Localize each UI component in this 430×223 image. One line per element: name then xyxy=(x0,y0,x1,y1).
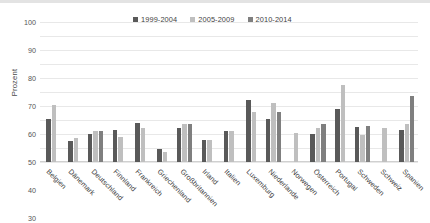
bar[interactable] xyxy=(135,123,139,162)
bar[interactable] xyxy=(113,130,117,162)
bar-group xyxy=(151,22,173,162)
x-label-cell: Luxemburg xyxy=(240,165,262,221)
x-label-cell: Großbritannien xyxy=(173,165,195,221)
x-label-cell: Österreich xyxy=(307,165,329,221)
bar[interactable] xyxy=(202,140,206,162)
bar-group xyxy=(351,22,373,162)
bar-group xyxy=(262,22,284,162)
y-axis-tick-label: 30 xyxy=(28,214,36,223)
bar[interactable] xyxy=(405,124,409,162)
bar[interactable] xyxy=(99,131,103,162)
bar-group xyxy=(129,22,151,162)
bar[interactable] xyxy=(341,85,345,162)
bar[interactable] xyxy=(399,130,403,162)
bar[interactable] xyxy=(355,127,359,162)
bar[interactable] xyxy=(277,112,281,162)
bar[interactable] xyxy=(335,109,339,162)
bar-group xyxy=(84,22,106,162)
y-axis-tick-label: 90 xyxy=(28,46,36,55)
bar[interactable] xyxy=(266,119,270,162)
bar-group xyxy=(40,22,62,162)
bar[interactable] xyxy=(141,128,145,162)
bar[interactable] xyxy=(224,131,228,162)
bar-group xyxy=(329,22,351,162)
bar[interactable] xyxy=(68,141,72,162)
bar-group xyxy=(285,22,307,162)
bar-group xyxy=(240,22,262,162)
y-axis-tick-label: 80 xyxy=(28,74,36,83)
bar[interactable] xyxy=(294,133,298,162)
bar[interactable] xyxy=(207,140,211,162)
x-label-cell: Niederlande xyxy=(262,165,284,221)
y-axis-tick-label: 100 xyxy=(24,18,36,27)
bar[interactable] xyxy=(366,126,370,162)
bar-group xyxy=(218,22,240,162)
bar[interactable] xyxy=(382,128,386,162)
bar[interactable] xyxy=(229,131,233,162)
y-axis-title: Prozent xyxy=(10,53,19,113)
bar-group xyxy=(173,22,195,162)
bar[interactable] xyxy=(246,100,250,162)
x-axis-labels: BelgienDänemarkDeutschlandFinnlandFrankr… xyxy=(40,165,418,221)
x-label-cell: Norwegen xyxy=(285,165,307,221)
bar-group xyxy=(107,22,129,162)
bar[interactable] xyxy=(188,124,192,162)
bar-group xyxy=(62,22,84,162)
bar-group xyxy=(196,22,218,162)
bar-group xyxy=(374,22,396,162)
x-label-cell: Griechenland xyxy=(151,165,173,221)
y-axis-tick-label: 40 xyxy=(28,186,36,195)
x-label-cell: Spanien xyxy=(396,165,418,221)
bar[interactable] xyxy=(163,152,167,162)
bar[interactable] xyxy=(310,134,314,162)
bar[interactable] xyxy=(360,135,364,162)
bar[interactable] xyxy=(252,112,256,162)
bar[interactable] xyxy=(177,128,181,162)
x-label-cell: Finnland xyxy=(107,165,129,221)
x-label-cell: Italien xyxy=(218,165,240,221)
bar[interactable] xyxy=(410,96,414,162)
x-label-cell: Portugal xyxy=(329,165,351,221)
bar[interactable] xyxy=(46,119,50,162)
bar-group xyxy=(396,22,418,162)
y-axis-tick-label: 70 xyxy=(28,102,36,111)
bar[interactable] xyxy=(52,105,56,162)
bar[interactable] xyxy=(316,128,320,162)
bar-groups xyxy=(40,22,418,162)
bar[interactable] xyxy=(182,124,186,162)
bar[interactable] xyxy=(93,131,97,162)
bar[interactable] xyxy=(74,138,78,162)
bar[interactable] xyxy=(118,137,122,162)
x-label-cell: Schweiz xyxy=(374,165,396,221)
bar-chart: 1999-20042005-20092010-2014 Prozent 1009… xyxy=(0,0,430,223)
x-label-cell: Dänemark xyxy=(62,165,84,221)
x-label-cell: Belgien xyxy=(40,165,62,221)
gridline: 0 xyxy=(40,162,418,163)
bar-group xyxy=(307,22,329,162)
x-label-cell: Irland xyxy=(196,165,218,221)
x-label-cell: Frankreich xyxy=(129,165,151,221)
x-axis-tick-label: Spanien xyxy=(400,167,426,193)
bar[interactable] xyxy=(321,124,325,162)
plot-area: 1009080706050403020100 xyxy=(40,22,418,162)
bar[interactable] xyxy=(157,149,161,162)
y-axis-tick-label: 50 xyxy=(28,158,36,167)
bar[interactable] xyxy=(271,103,275,162)
bar[interactable] xyxy=(88,134,92,162)
x-label-cell: Schweden xyxy=(351,165,373,221)
x-label-cell: Deutschland xyxy=(84,165,106,221)
y-axis-tick-label: 60 xyxy=(28,130,36,139)
